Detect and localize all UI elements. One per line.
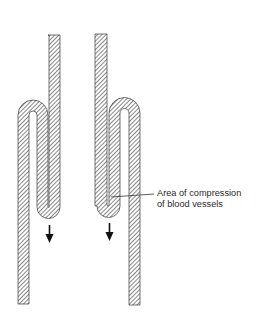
annotation-line-1: Area of compression [157,188,241,199]
folded-vessels-diagram [0,0,260,316]
annotation-label: Area of compression of blood vessels [157,188,241,210]
right-down-arrow-icon [106,223,114,241]
right-vessel-segment [95,34,140,305]
left-vessel-top-segment [18,35,60,304]
left-down-arrow-icon [46,225,54,243]
left-folded-vessel [17,35,60,304]
annotation-line-2: of blood vessels [157,199,241,210]
right-folded-vessel [95,34,140,305]
